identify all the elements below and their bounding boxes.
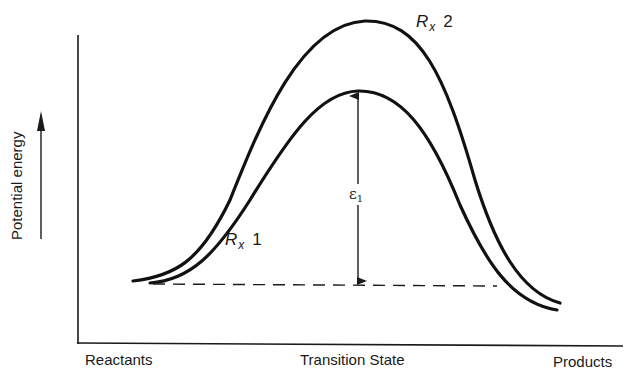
rx1-label-num: 1	[252, 230, 261, 249]
rx2-label-num: 2	[443, 12, 452, 31]
epsilon-subscript: 1	[357, 193, 363, 204]
curve-label-rx1: Rx1	[225, 230, 262, 252]
curve-label-rx2: Rx2	[416, 12, 453, 34]
x-label-products: Products	[553, 353, 612, 370]
rx2-label-main: R	[416, 12, 428, 31]
rx2-label-sub: x	[429, 20, 435, 34]
x-label-reactants: Reactants	[85, 351, 153, 368]
x-label-transition-state: Transition State	[300, 351, 405, 368]
rx1-label-sub: x	[238, 238, 244, 252]
rx1-label-main: R	[225, 230, 237, 249]
activation-energy-label: ε1	[349, 184, 363, 205]
epsilon-symbol: ε	[349, 185, 357, 203]
curve-rx2	[133, 21, 560, 303]
reactant-baseline	[153, 284, 497, 286]
energy-diagram	[0, 0, 641, 381]
arrow-up-icon	[37, 111, 45, 131]
x-axis	[77, 343, 623, 346]
y-axis-label: Potential energy	[8, 132, 25, 240]
